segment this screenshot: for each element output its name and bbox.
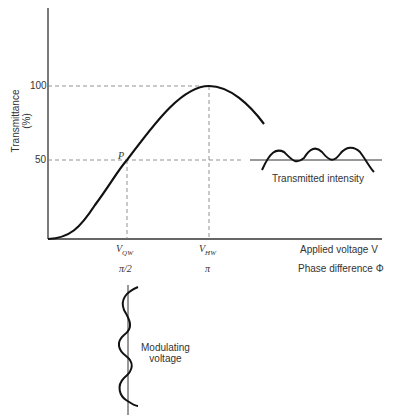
y-axis-label-line1: Transmittance [10,86,21,156]
y-tick-100: 100 [30,80,47,91]
vhw-sub: HW [205,249,216,257]
y-axis-label-line2: (%) [21,86,32,156]
modulating-label-line1: Modulating [141,342,190,353]
transmittance-curve [48,86,264,239]
vqw-sub: QW [122,249,133,257]
x-axis-phase-label: Phase difference Φ [298,263,384,274]
phase-tick-pi: π [205,263,210,274]
y-axis-label: Transmittance (%) [10,86,32,156]
transmittance-diagram [0,0,396,417]
phase-tick-pi-2: π/2 [119,263,132,274]
modulating-label-line2: voltage [141,353,190,364]
x-tick-vqw: VQW [116,243,133,257]
transmitted-intensity-label: Transmitted intensity [272,173,364,184]
y-tick-50: 50 [35,154,46,165]
modulating-voltage-label: Modulating voltage [141,342,190,364]
x-tick-vhw: VHW [199,243,216,257]
x-axis-voltage-label: Applied voltage V [300,244,378,255]
point-p-label: P [118,150,124,161]
